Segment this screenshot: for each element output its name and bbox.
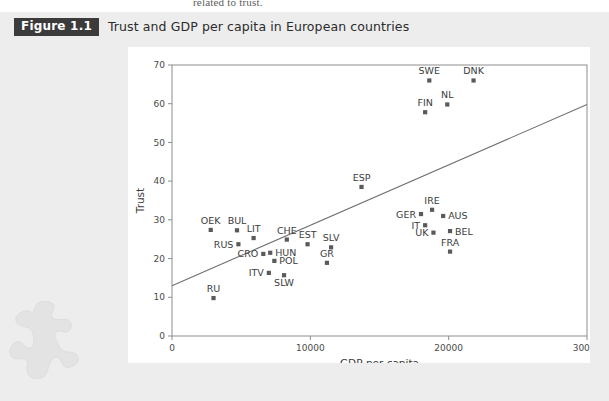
point-label: GER [396,209,416,220]
scatter-marker [423,110,427,114]
scatter-marker [431,231,435,235]
scatter-marker [419,212,423,216]
y-tick-label: 10 [154,292,166,302]
scatter-marker [305,242,309,246]
point-label: BEL [455,226,474,237]
point-label: SLV [323,232,340,243]
point-label: EST [299,229,317,240]
scatter-marker [448,250,452,254]
x-axis-title: GDP per capita [340,357,419,363]
point-label: GR [320,248,334,259]
scatter-marker [445,102,449,106]
point-label: RU [207,283,221,294]
point-label: SWE [419,65,440,76]
y-axis-title: Trust [134,188,146,214]
trend-line [172,104,587,285]
scatter-marker [427,78,431,82]
point-label: DNK [463,65,484,76]
scatter-plot: 0102030405060700100002000030000 SWEDNKNL… [128,47,590,363]
regression-line [172,104,587,285]
scatter-marker [267,271,271,275]
scatter-marker [285,238,289,242]
chart-axes: 0102030405060700100002000030000 [154,60,590,353]
scatter-marker [211,296,215,300]
point-label: ESP [353,172,371,183]
point-label: IRE [424,195,439,206]
chart-panel: 0102030405060700100002000030000 SWEDNKNL… [128,47,590,363]
y-tick-label: 70 [154,60,166,70]
figure-number-badge: Figure 1.1 [14,18,99,36]
point-label: NL [441,89,454,100]
scatter-marker [471,78,475,82]
point-label: FIN [417,97,432,108]
bleed-body-text: related to trust. [193,0,263,8]
x-tick-label: 30000 [573,343,590,353]
y-tick-label: 30 [154,215,166,225]
y-tick-label: 50 [154,138,166,148]
y-tick-label: 60 [154,99,166,109]
scatter-marker [325,261,329,265]
point-label: POL [279,255,298,266]
scatter-marker [359,185,363,189]
scatter-marker [252,236,256,240]
figure-caption: Figure 1.1 Trust and GDP per capita in E… [14,17,409,36]
scatter-marker [235,228,239,232]
point-label: AUS [448,210,467,221]
y-tick-label: 0 [159,331,165,341]
scatter-marker [448,229,452,233]
y-tick-label: 40 [154,176,166,186]
scatter-marker [261,252,265,256]
point-label: OEK [201,215,221,226]
x-tick-label: 20000 [434,343,463,353]
puzzle-piece-icon [6,300,84,392]
point-label: CRO [238,248,259,259]
x-tick-label: 10000 [296,343,325,353]
scatter-marker [268,251,272,255]
figure-title: Trust and GDP per capita in European cou… [108,19,409,34]
point-label: UK [415,227,429,238]
axis-titles: GDP per capitaTrust [134,188,419,363]
page-top-margin [0,0,609,12]
point-label: SLW [274,277,294,288]
point-label: RUS [214,239,234,250]
scatter-marker [430,208,434,212]
scatter-marker [236,242,240,246]
scatter-marker [441,214,445,218]
y-tick-label: 20 [154,254,166,264]
data-points: SWEDNKNLFINESPIREGERAUSITUKBELFRAOEKBULL… [201,65,485,300]
scatter-marker [209,228,213,232]
x-tick-label: 0 [169,343,175,353]
point-label: LIT [247,223,261,234]
scatter-marker [272,259,276,263]
point-label: ITV [249,267,265,278]
point-label: FRA [441,237,460,248]
point-label: CHE [277,225,297,236]
page-background: related to trust. Figure 1.1 Trust and G… [0,0,609,401]
point-label: BUL [228,215,247,226]
